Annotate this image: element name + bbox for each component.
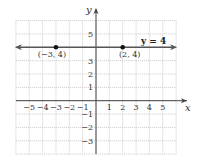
x-tick-label: −5	[23, 103, 35, 112]
point-label: (−3, 4)	[38, 50, 66, 59]
point-label: (2, 4)	[119, 50, 141, 59]
x-tick-label: 4	[147, 103, 152, 112]
y-tick-label: 5	[88, 30, 93, 39]
x-tick-label: −4	[37, 103, 49, 112]
x-tick-label: −3	[50, 103, 62, 112]
data-point	[120, 45, 125, 50]
x-tick-label: −2	[63, 103, 75, 112]
x-tick-label: 3	[134, 103, 139, 112]
y-tick-label: 3	[88, 57, 93, 66]
y-tick-label: −2	[81, 123, 93, 132]
x-tick-label: 1	[107, 103, 112, 112]
y-tick-label: −1	[81, 110, 93, 119]
x-axis-label: x	[185, 102, 191, 113]
y-axis-label: y	[85, 4, 92, 15]
y-tick-label: 2	[88, 70, 93, 79]
equation-label: y = 4	[140, 36, 166, 46]
coordinate-plane: −5−4−3−2−112345−3−2−11235 (−3, 4)(2, 4) …	[0, 0, 200, 160]
y-tick-label: 1	[88, 83, 93, 92]
y-tick-label: −3	[81, 137, 93, 146]
x-tick-label: 5	[160, 103, 165, 112]
axes	[16, 8, 187, 154]
x-tick-label: 2	[120, 103, 125, 112]
data-point	[54, 45, 59, 50]
